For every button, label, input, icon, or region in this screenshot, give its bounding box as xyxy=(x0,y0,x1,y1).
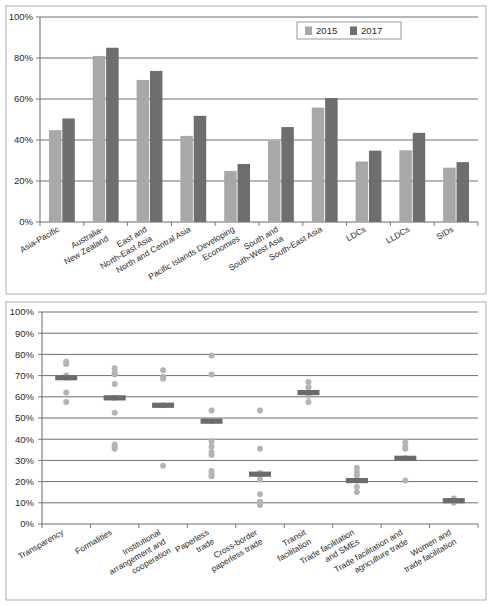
data-point xyxy=(257,476,263,482)
bar-2015 xyxy=(312,108,324,222)
bar-2015 xyxy=(224,171,236,222)
bar-2015 xyxy=(93,56,105,222)
data-point xyxy=(160,376,166,382)
bar-2017 xyxy=(238,164,250,222)
bar-2017 xyxy=(413,133,425,222)
bar-2017 xyxy=(457,162,469,222)
median-marker xyxy=(55,375,77,380)
bar-2017 xyxy=(281,127,293,222)
y-axis-tick-label: 100% xyxy=(9,11,34,22)
y-axis-tick-label: 20% xyxy=(14,175,34,186)
y-axis-tick-label: 60% xyxy=(15,391,35,402)
x-axis-category-label: Asia-Pacific xyxy=(18,224,61,255)
bar-2017 xyxy=(325,98,337,222)
bar-2015 xyxy=(49,130,61,222)
x-axis-category-label: Pacific Islands DevelopingEconomies xyxy=(146,224,241,291)
y-axis-tick-label: 80% xyxy=(14,52,34,63)
median-marker xyxy=(394,456,416,461)
data-point xyxy=(257,408,263,414)
data-point xyxy=(63,399,69,405)
data-point xyxy=(257,446,263,452)
legend-label-2015: 2015 xyxy=(316,25,337,36)
data-point xyxy=(305,384,311,390)
data-point xyxy=(402,478,408,484)
data-point xyxy=(63,361,69,367)
y-axis-tick-label: 100% xyxy=(10,306,35,317)
data-point xyxy=(209,372,215,378)
bar-2015 xyxy=(137,80,149,222)
x-axis-label-line: SIDs xyxy=(434,224,455,242)
legend-swatch-2015 xyxy=(305,27,312,36)
x-axis-category-label: LDCs xyxy=(344,224,367,243)
x-axis-category-label: Women andtrade facilitation xyxy=(397,527,458,574)
data-point xyxy=(209,452,215,458)
x-axis-label-line: Transparency xyxy=(16,527,66,562)
bar-2015 xyxy=(268,141,280,222)
data-point xyxy=(354,472,360,478)
bar-2017 xyxy=(106,48,118,222)
data-point xyxy=(209,352,215,358)
data-point xyxy=(354,484,360,490)
x-axis-category-label: Formalities xyxy=(73,527,113,556)
x-axis-label-line: Formalities xyxy=(73,527,113,556)
y-axis-tick-label: 20% xyxy=(15,476,35,487)
x-axis-category-label: SIDs xyxy=(434,224,455,242)
data-point xyxy=(305,379,311,385)
x-axis-label-line: Asia-Pacific xyxy=(18,224,61,255)
median-marker xyxy=(104,395,126,400)
median-marker xyxy=(443,498,465,503)
bar-2015 xyxy=(443,168,455,222)
bar-2015 xyxy=(399,150,411,222)
x-axis-label-line: LLDCs xyxy=(384,224,411,245)
x-axis-category-label: Transparency xyxy=(16,527,66,562)
y-axis-tick-label: 40% xyxy=(15,434,35,445)
y-axis-tick-label: 30% xyxy=(15,455,35,466)
median-marker xyxy=(249,472,271,477)
legend: 20152017 xyxy=(297,22,401,39)
y-axis-tick-label: 10% xyxy=(15,497,35,508)
y-axis-tick-label: 70% xyxy=(15,370,35,381)
data-point xyxy=(257,502,263,508)
data-point xyxy=(112,372,118,378)
y-axis-tick-label: 60% xyxy=(14,93,34,104)
median-marker xyxy=(297,390,319,395)
x-axis-category-label: Trade facilitationand SMEs xyxy=(298,527,361,575)
data-point xyxy=(354,489,360,495)
y-axis-tick-label: 90% xyxy=(15,328,35,339)
x-axis-label-line: LDCs xyxy=(344,224,367,243)
y-axis-tick-label: 50% xyxy=(15,412,35,423)
data-point xyxy=(160,463,166,469)
bar-2015 xyxy=(356,162,368,222)
dot-chart-canvas: 0%10%20%30%40%50%60%70%80%90%100%Transpa… xyxy=(0,300,492,605)
median-marker xyxy=(152,403,174,408)
x-axis-category-label: Cross-borderpaperless trade xyxy=(204,527,265,574)
median-marker xyxy=(346,478,368,483)
x-axis-category-label: Paperlesstrade xyxy=(173,527,216,564)
bar-2017 xyxy=(369,151,381,222)
y-axis-tick-label: 80% xyxy=(15,349,35,360)
data-point xyxy=(209,438,215,444)
data-point xyxy=(209,444,215,450)
bar-2017 xyxy=(62,118,74,222)
data-point xyxy=(160,367,166,373)
x-axis-category-label: LLDCs xyxy=(384,224,411,245)
data-point xyxy=(402,446,408,452)
bar-chart-canvas: 0%20%40%60%80%100%Asia-PacificAustralia-… xyxy=(0,0,492,300)
bar-2017 xyxy=(194,116,206,222)
bar-2017 xyxy=(150,71,162,222)
bar-chart-figure: 0%20%40%60%80%100%Asia-PacificAustralia-… xyxy=(0,0,492,300)
y-axis-tick-label: 0% xyxy=(20,518,34,529)
bar-2015 xyxy=(180,136,192,222)
legend-box xyxy=(297,22,401,39)
dot-chart-figure: 0%10%20%30%40%50%60%70%80%90%100%Transpa… xyxy=(0,300,492,605)
legend-label-2017: 2017 xyxy=(361,25,382,36)
data-point xyxy=(209,473,215,479)
data-point xyxy=(209,408,215,414)
data-point xyxy=(305,399,311,405)
data-point xyxy=(112,446,118,452)
data-point xyxy=(112,410,118,416)
legend-swatch-2017 xyxy=(350,27,357,36)
y-axis-tick-label: 0% xyxy=(19,216,33,227)
data-point xyxy=(257,491,263,497)
y-axis-tick-label: 40% xyxy=(14,134,34,145)
